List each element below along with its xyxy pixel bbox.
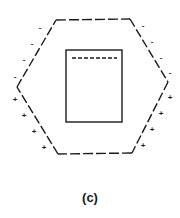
charges-upper-right: - - - - (142, 21, 172, 77)
inner-rectangle (66, 50, 122, 122)
hexagon-upper-right-edge (130, 19, 168, 82)
charge-plus: + (32, 127, 37, 136)
figure-canvas: - - - - + + + + - - - - + + + + (0, 0, 180, 218)
charge-minus: - (14, 72, 17, 81)
hexagon-top-edge (56, 19, 130, 20)
charge-plus: + (141, 141, 146, 150)
charge-minus: - (39, 23, 42, 32)
charge-plus: + (150, 125, 155, 134)
charge-minus: - (160, 53, 163, 62)
hexagon-lower-left-edge (17, 87, 58, 154)
hexagon-bottom-edge (58, 153, 132, 154)
charge-plus: + (22, 111, 27, 120)
hexagon-upper-left-edge (17, 20, 56, 87)
charges-lower-right: + + + + (141, 93, 173, 150)
hexagon-boundary (17, 19, 168, 154)
charge-minus: - (151, 37, 154, 46)
charge-minus: - (31, 39, 34, 48)
charge-minus: - (142, 21, 145, 30)
charge-plus: + (42, 143, 47, 152)
charges-lower-left: + + + + (13, 95, 47, 152)
charge-plus: + (168, 93, 173, 102)
charge-plus: + (159, 109, 164, 118)
charge-plus: + (13, 95, 18, 104)
charge-minus: - (23, 55, 26, 64)
figure-caption: (c) (0, 190, 180, 205)
charge-minus: - (169, 68, 172, 77)
